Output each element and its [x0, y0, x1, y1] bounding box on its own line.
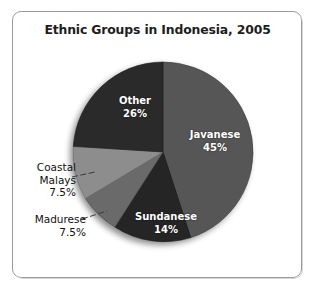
callout-label-madurese: Madurese 7.5%: [14, 213, 86, 238]
slice-label-other-name: Other: [119, 95, 151, 106]
slice-label-javanese-name: Javanese: [190, 129, 240, 140]
slice-label-sundanese-pct: 14%: [126, 224, 206, 237]
slice-label-javanese: Javanese 45%: [176, 129, 254, 154]
pie-chart: Javanese 45% Other 26% Sundanese 14% Coa…: [0, 0, 315, 292]
slice-label-javanese-pct: 45%: [176, 142, 254, 155]
callout-label-coastal-malays: Coastal Malays 7.5%: [14, 161, 76, 199]
callout-label-coastal-malays-line2: Malays: [14, 174, 76, 187]
callout-label-madurese-pct: 7.5%: [14, 226, 86, 239]
pie-chart-svg: [0, 0, 315, 292]
slice-label-other: Other 26%: [97, 95, 173, 120]
slice-label-sundanese-name: Sundanese: [135, 211, 197, 222]
callout-label-madurese-name: Madurese: [14, 213, 86, 226]
slice-label-other-pct: 26%: [97, 108, 173, 121]
callout-label-coastal-malays-pct: 7.5%: [14, 186, 76, 199]
slice-label-sundanese: Sundanese 14%: [126, 211, 206, 236]
callout-label-coastal-malays-line1: Coastal: [14, 161, 76, 174]
chart-page: Ethnic Groups in Indonesia, 2005: [0, 0, 315, 292]
